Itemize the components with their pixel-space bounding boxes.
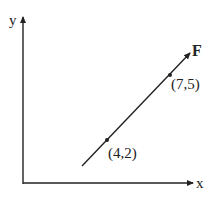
point-marker: [105, 138, 109, 142]
vector-label: F: [192, 42, 202, 59]
point-4-2: (4,2): [105, 138, 137, 162]
diagram: y x F (4,2) (7,5): [0, 0, 213, 199]
x-axis: x: [23, 175, 204, 191]
point-7-5: (7,5): [168, 73, 200, 93]
x-axis-label: x: [196, 175, 204, 191]
y-axis: y: [9, 12, 23, 184]
point-label: (7,5): [171, 76, 200, 93]
force-vector: F: [82, 42, 202, 166]
y-axis-label: y: [9, 12, 17, 28]
point-label: (4,2): [108, 145, 137, 162]
